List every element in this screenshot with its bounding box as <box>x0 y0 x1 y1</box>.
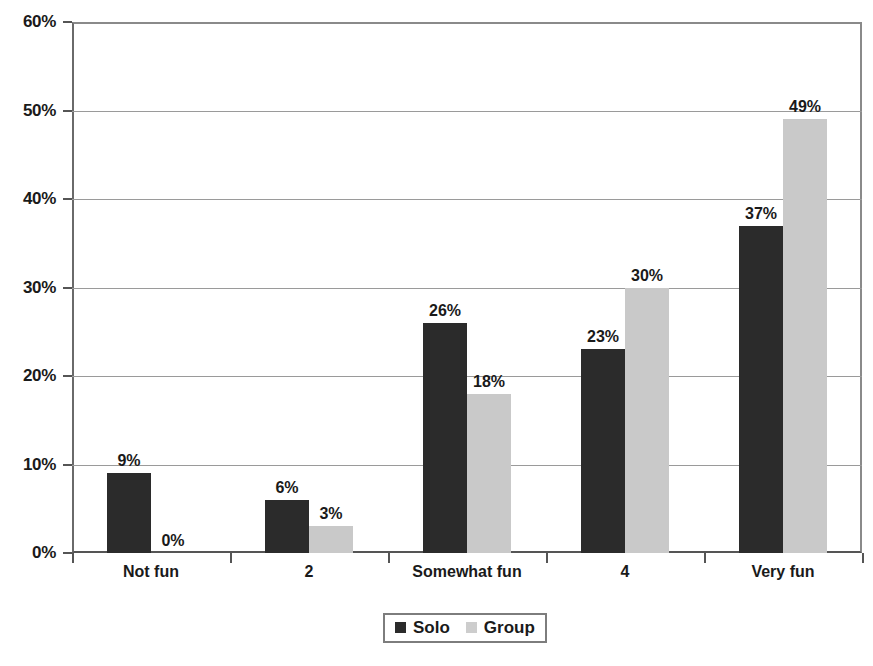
x-axis-label-1: 2 <box>230 563 388 581</box>
y-axis-label-20: 20% <box>0 366 56 386</box>
x-tick-2 <box>388 553 390 563</box>
bars-layer: 9%0%6%3%26%18%23%30%37%49% <box>72 22 862 553</box>
bar-value-label-solo-2: 26% <box>417 302 473 320</box>
y-axis-label-60: 60% <box>0 12 56 32</box>
bar-group-2 <box>467 394 511 553</box>
y-tick-40 <box>63 198 72 200</box>
bar-group-3 <box>625 288 669 554</box>
bar-value-label-solo-4: 37% <box>733 205 789 223</box>
bar-value-label-solo-0: 9% <box>101 452 157 470</box>
y-axis-label-50: 50% <box>0 101 56 121</box>
legend-label-solo: Solo <box>413 619 450 636</box>
legend-swatch-solo-icon <box>395 622 406 633</box>
x-tick-1 <box>230 553 232 563</box>
y-axis-label-30: 30% <box>0 278 56 298</box>
bar-group-4 <box>783 119 827 553</box>
x-axis-label-4: Very fun <box>704 563 862 581</box>
chart-legend: Solo Group <box>383 613 547 643</box>
y-tick-60 <box>63 21 72 23</box>
bar-value-label-group-4: 49% <box>777 98 833 116</box>
x-tick-0 <box>72 553 74 563</box>
x-tick-4 <box>704 553 706 563</box>
legend-entry-solo[interactable]: Solo <box>395 619 450 636</box>
x-axis-label-3: 4 <box>546 563 704 581</box>
bar-value-label-solo-3: 23% <box>575 328 631 346</box>
bar-value-label-group-1: 3% <box>303 505 359 523</box>
y-axis-label-10: 10% <box>0 455 56 475</box>
bar-value-label-group-0: 0% <box>145 532 201 550</box>
x-tick-5 <box>862 553 864 563</box>
bar-group-1 <box>309 526 353 553</box>
y-tick-30 <box>63 287 72 289</box>
bar-value-label-group-2: 18% <box>461 373 517 391</box>
legend-entry-group[interactable]: Group <box>466 619 535 636</box>
y-axis-label-0: 0% <box>0 543 56 563</box>
legend-label-group: Group <box>484 619 535 636</box>
bar-solo-4 <box>739 226 783 553</box>
x-tick-3 <box>546 553 548 563</box>
legend-swatch-group-icon <box>466 622 477 633</box>
bar-solo-3 <box>581 349 625 553</box>
bar-value-label-group-3: 30% <box>619 267 675 285</box>
x-axis-label-0: Not fun <box>72 563 230 581</box>
y-tick-0 <box>63 552 72 554</box>
y-axis-label-40: 40% <box>0 189 56 209</box>
y-tick-50 <box>63 110 72 112</box>
y-tick-20 <box>63 375 72 377</box>
x-axis-label-2: Somewhat fun <box>388 563 546 581</box>
y-tick-10 <box>63 464 72 466</box>
bar-solo-2 <box>423 323 467 553</box>
bar-value-label-solo-1: 6% <box>259 479 315 497</box>
bar-chart: 0%10%20%30%40%50%60% Not fun2Somewhat fu… <box>0 0 873 666</box>
